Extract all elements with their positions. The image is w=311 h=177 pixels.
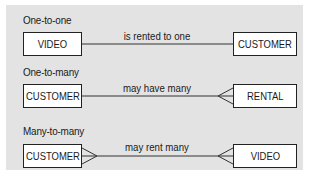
entity-label: VIDEO: [250, 150, 279, 162]
crow-foot-icon: [82, 148, 97, 164]
er-relationship-diagram: One-to-one VIDEO is rented to one CUSTOM…: [0, 0, 311, 177]
entity-label: CUSTOMER: [238, 38, 292, 50]
entity-rental: RENTAL: [233, 84, 297, 108]
row-title-one-to-one: One-to-one: [23, 14, 71, 26]
crow-foot-icon: [218, 88, 233, 104]
entity-customer: CUSTOMER: [23, 84, 82, 108]
entity-label: CUSTOMER: [26, 150, 80, 162]
entity-video: VIDEO: [233, 144, 297, 168]
entity-label: RENTAL: [247, 90, 284, 102]
entity-label: CUSTOMER: [26, 90, 80, 102]
relationship-label: may rent many: [125, 141, 189, 153]
crow-foot-icon: [218, 148, 233, 164]
relationship-label: is rented to one: [124, 30, 191, 42]
relationship-label: may have many: [123, 82, 191, 94]
row-title-many-to-many: Many-to-many: [23, 125, 84, 137]
entity-video: VIDEO: [23, 32, 82, 56]
entity-customer: CUSTOMER: [23, 144, 82, 168]
row-title-one-to-many: One-to-many: [23, 66, 79, 78]
entity-customer: CUSTOMER: [233, 32, 297, 56]
entity-label: VIDEO: [38, 38, 67, 50]
